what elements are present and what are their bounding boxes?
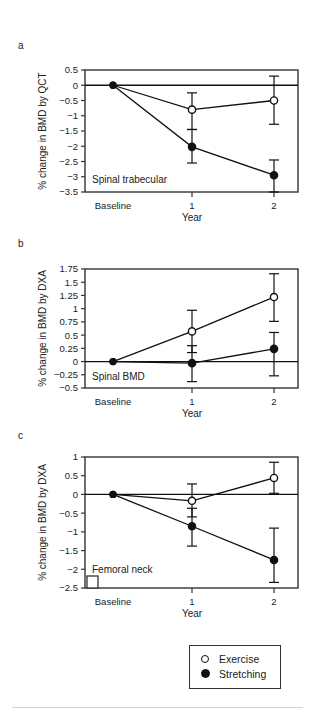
data-point-exercise bbox=[188, 106, 195, 113]
figure-container: a 0.50−0.5−1−1.5−2−2.5−3−3.5Baseline12Ye… bbox=[0, 0, 315, 719]
x-tick-label: Baseline bbox=[95, 396, 131, 407]
y-tick-label: −1 bbox=[67, 110, 78, 121]
legend-item-stretching: Stretching bbox=[198, 666, 270, 681]
x-axis-title: Year bbox=[182, 608, 203, 619]
bottom-divider bbox=[12, 707, 303, 708]
panel-a: a 0.50−0.5−1−1.5−2−2.5−3−3.5Baseline12Ye… bbox=[0, 0, 315, 240]
y-tick-label: 0.5 bbox=[65, 64, 78, 75]
panel-b: b 1.751.51.2510.750.50.250−0.25−0.5Basel… bbox=[0, 230, 315, 445]
y-tick-label: 1 bbox=[73, 451, 78, 462]
panel-a-plot: 0.50−0.5−1−1.5−2−2.5−3−3.5Baseline12Year… bbox=[0, 0, 315, 240]
y-tick-label: 0 bbox=[73, 356, 78, 367]
y-tick-label: −3.5 bbox=[59, 186, 78, 197]
y-tick-label: −2.5 bbox=[59, 582, 78, 593]
y-tick-label: 0.25 bbox=[60, 343, 79, 354]
data-point-baseline bbox=[110, 491, 116, 497]
filled-circle-icon bbox=[198, 669, 212, 678]
y-tick-label: 0.5 bbox=[65, 470, 78, 481]
data-point-stretching bbox=[188, 360, 195, 367]
data-point-baseline bbox=[110, 82, 116, 88]
y-tick-label: 0 bbox=[73, 489, 78, 500]
data-point-stretching bbox=[188, 143, 195, 150]
x-tick-label: 2 bbox=[271, 396, 276, 407]
y-tick-label: 0.5 bbox=[65, 330, 78, 341]
y-axis-title: % change in BMD by DXA bbox=[37, 270, 48, 387]
y-tick-label: −0.25 bbox=[54, 369, 78, 380]
y-tick-label: 0 bbox=[73, 80, 78, 91]
y-tick-label: −0.5 bbox=[59, 95, 78, 106]
data-point-exercise bbox=[188, 497, 195, 504]
x-tick-label: Baseline bbox=[95, 200, 131, 211]
artifact-square bbox=[87, 576, 98, 588]
x-tick-label: 1 bbox=[189, 596, 194, 607]
y-tick-label: −2 bbox=[67, 141, 78, 152]
data-point-stretching bbox=[270, 556, 277, 563]
data-point-exercise bbox=[270, 293, 277, 300]
y-tick-label: 1.5 bbox=[65, 277, 78, 288]
panel-c-plot: 10.50−0.5−1−1.5−2−2.5Baseline12Year% cha… bbox=[0, 425, 315, 625]
x-tick-label: 1 bbox=[189, 200, 194, 211]
series-line-stretching bbox=[113, 85, 274, 175]
data-point-exercise bbox=[270, 474, 277, 481]
x-tick-label: 2 bbox=[271, 596, 276, 607]
x-axis-title: Year bbox=[182, 408, 203, 419]
open-circle-icon bbox=[198, 655, 212, 663]
data-point-baseline bbox=[110, 359, 116, 365]
y-tick-label: −2 bbox=[67, 564, 78, 575]
data-point-exercise bbox=[188, 328, 195, 335]
data-point-stretching bbox=[188, 523, 195, 530]
panel-inline-label: Femoral neck bbox=[92, 564, 154, 575]
x-axis-title: Year bbox=[182, 212, 203, 223]
x-tick-label: 1 bbox=[189, 396, 194, 407]
y-tick-label: 1 bbox=[73, 303, 78, 314]
y-tick-label: −1.5 bbox=[59, 545, 78, 556]
legend-item-exercise: Exercise bbox=[198, 651, 270, 666]
y-axis-title: % change in BMD by DXA bbox=[37, 464, 48, 581]
panel-c: c 10.50−0.5−1−1.5−2−2.5Baseline12Year% c… bbox=[0, 425, 315, 625]
legend-label-stretching: Stretching bbox=[219, 668, 266, 680]
panel-b-plot: 1.751.51.2510.750.50.250−0.25−0.5Baselin… bbox=[0, 230, 315, 445]
y-tick-label: −1.5 bbox=[59, 125, 78, 136]
y-tick-label: 0.75 bbox=[60, 316, 79, 327]
x-tick-label: 2 bbox=[271, 200, 276, 211]
x-tick-label: Baseline bbox=[95, 596, 131, 607]
y-tick-label: 1.25 bbox=[60, 290, 79, 301]
y-tick-label: 1.75 bbox=[60, 263, 79, 274]
y-tick-label: −3 bbox=[67, 171, 78, 182]
y-tick-label: −0.5 bbox=[59, 382, 78, 393]
data-point-exercise bbox=[270, 97, 277, 104]
y-tick-label: −0.5 bbox=[59, 508, 78, 519]
y-axis-title: % change in BMD by QCT bbox=[37, 72, 48, 189]
legend: Exercise Stretching bbox=[189, 645, 281, 689]
legend-label-exercise: Exercise bbox=[219, 653, 259, 665]
panel-inline-label: Spinal trabecular bbox=[92, 174, 168, 185]
panel-inline-label: Spinal BMD bbox=[92, 371, 145, 382]
y-tick-label: −1 bbox=[67, 526, 78, 537]
data-point-stretching bbox=[270, 345, 277, 352]
y-tick-label: −2.5 bbox=[59, 156, 78, 167]
data-point-stretching bbox=[270, 172, 277, 179]
